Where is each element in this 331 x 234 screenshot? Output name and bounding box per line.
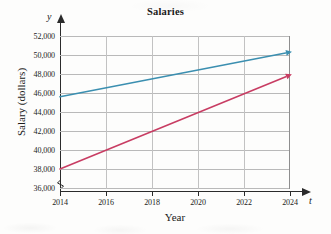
salaries-chart-figure: Salaries y t 52,000 50,000 48,000 46,000… <box>0 0 331 234</box>
series-arrowhead-blue-line <box>286 50 292 56</box>
series-layer <box>0 0 331 234</box>
x-axis-title: Year <box>60 211 290 223</box>
y-axis-title: Salary (dollars) <box>15 37 27 167</box>
